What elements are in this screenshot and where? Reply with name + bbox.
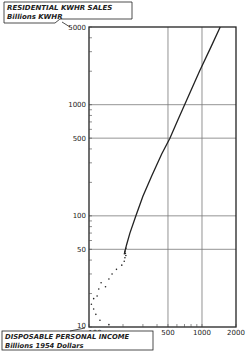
trend-line xyxy=(124,27,220,254)
data-point xyxy=(93,298,95,300)
data-point xyxy=(124,257,126,259)
data-point xyxy=(95,314,97,316)
y-axis-label: RESIDENTIAL KWHR SALES xyxy=(7,4,112,12)
data-point xyxy=(99,319,101,321)
y-tick-label: 50 xyxy=(77,246,86,254)
data-point xyxy=(111,273,113,275)
x-axis-units: Billions 1954 Dollars xyxy=(5,342,84,350)
data-point xyxy=(108,324,110,326)
data-point xyxy=(116,269,118,271)
x-tick-label: 1000 xyxy=(193,329,211,337)
data-point xyxy=(91,304,93,306)
x-tick-label: 500 xyxy=(161,329,174,337)
data-point xyxy=(108,278,110,280)
data-point xyxy=(123,261,125,263)
data-point xyxy=(121,264,123,266)
y-tick-label: 5000 xyxy=(68,24,86,32)
y-tick-label: 500 xyxy=(73,135,86,143)
data-point xyxy=(105,286,107,288)
data-point xyxy=(125,255,127,257)
chart: 10501005001000500010050010002000RESIDENT… xyxy=(0,0,252,351)
data-point xyxy=(98,288,100,290)
data-point xyxy=(100,282,102,284)
plot-frame xyxy=(89,27,236,327)
data-point xyxy=(93,308,95,310)
y-tick-label: 1000 xyxy=(68,101,86,109)
x-axis-label: DISPOSABLE PERSONAL INCOME xyxy=(5,333,129,341)
y-tick-label: 100 xyxy=(73,212,86,220)
data-point xyxy=(96,295,98,297)
y-axis-units: Billions KWHR xyxy=(7,13,63,21)
x-tick-label: 2000 xyxy=(227,329,245,337)
